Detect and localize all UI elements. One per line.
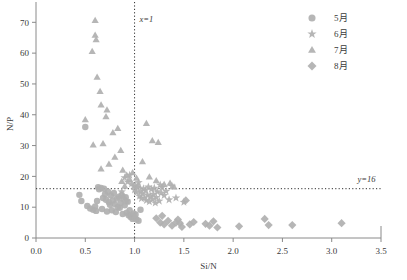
data-point-diamond bbox=[235, 222, 243, 230]
x-tick-label: 3.0 bbox=[326, 246, 338, 256]
data-point-triangle bbox=[105, 160, 112, 166]
legend-label: 6月 bbox=[334, 29, 348, 39]
x-tick-label: 0.0 bbox=[30, 246, 42, 256]
x-tick-label: 2.0 bbox=[228, 246, 240, 256]
data-point-triangle bbox=[139, 158, 146, 164]
reference-line-annotation: x=1 bbox=[139, 14, 154, 24]
legend-marker-circle bbox=[308, 14, 315, 21]
data-point-diamond bbox=[261, 215, 269, 223]
y-tick-label: 40 bbox=[20, 110, 30, 120]
data-point-triangle bbox=[155, 139, 162, 145]
data-point-triangle bbox=[82, 116, 89, 122]
legend-label: 7月 bbox=[334, 45, 348, 55]
y-tick-label: 60 bbox=[20, 48, 30, 58]
legend-item-star[interactable]: 6月 bbox=[307, 29, 347, 39]
x-tick-label: 1.5 bbox=[178, 246, 190, 256]
x-axis-title: Si/N bbox=[200, 261, 217, 271]
data-point-circle bbox=[137, 206, 143, 212]
axis-labels-layer: 0102030405060700.00.51.01.52.02.53.03.5S… bbox=[5, 14, 387, 271]
data-point-circle bbox=[76, 192, 82, 198]
data-point-triangle bbox=[143, 120, 150, 126]
data-point-star bbox=[165, 195, 173, 203]
data-point-triangle bbox=[96, 88, 103, 94]
data-point-triangle bbox=[166, 180, 173, 186]
data-point-triangle bbox=[149, 137, 156, 143]
data-point-triangle bbox=[92, 17, 99, 23]
data-point-triangle bbox=[114, 125, 121, 131]
y-tick-label: 70 bbox=[20, 18, 30, 28]
data-point-triangle bbox=[103, 106, 110, 112]
data-point-triangle bbox=[97, 165, 104, 171]
y-tick-label: 50 bbox=[20, 79, 30, 89]
data-point-triangle bbox=[146, 173, 153, 179]
data-point-circle bbox=[78, 198, 84, 204]
legend-item-circle[interactable]: 5月 bbox=[308, 13, 347, 23]
data-point-triangle bbox=[89, 48, 96, 54]
legend-marker-triangle bbox=[308, 46, 316, 53]
data-point-triangle bbox=[133, 175, 140, 181]
data-point-triangle bbox=[117, 147, 124, 153]
legend-label: 8月 bbox=[334, 61, 348, 71]
data-point-diamond bbox=[265, 221, 273, 229]
data-point-diamond bbox=[288, 221, 296, 229]
data-point-circle bbox=[93, 208, 99, 214]
x-tick-label: 1.0 bbox=[129, 246, 141, 256]
data-point-triangle bbox=[99, 140, 106, 146]
data-point-circle bbox=[82, 124, 88, 130]
data-point-triangle bbox=[92, 32, 99, 38]
legend-marker-star bbox=[307, 29, 316, 38]
series-triangle bbox=[82, 17, 178, 190]
data-point-diamond bbox=[213, 223, 221, 231]
legend-item-diamond[interactable]: 8月 bbox=[308, 61, 348, 71]
y-tick-label: 10 bbox=[20, 202, 30, 212]
reference-lines-layer bbox=[36, 2, 381, 238]
data-point-triangle bbox=[119, 167, 126, 173]
data-point-circle bbox=[94, 198, 100, 204]
y-tick-label: 0 bbox=[25, 233, 30, 243]
legend-label: 5月 bbox=[334, 13, 348, 23]
reference-line-annotation: y=16 bbox=[356, 174, 376, 184]
chart-legend: 5月6月7月8月 bbox=[307, 13, 347, 71]
scatter-chart-figure: 0102030405060700.00.51.01.52.02.53.03.5S… bbox=[0, 0, 407, 280]
y-axis-title: N/P bbox=[5, 117, 15, 131]
x-tick-label: 3.5 bbox=[375, 246, 387, 256]
data-point-star bbox=[172, 193, 180, 201]
data-point-triangle bbox=[97, 101, 104, 107]
legend-item-triangle[interactable]: 7月 bbox=[308, 45, 347, 55]
data-point-triangle bbox=[153, 177, 160, 183]
x-tick-label: 2.5 bbox=[277, 246, 289, 256]
data-point-circle bbox=[135, 218, 141, 224]
data-point-triangle bbox=[111, 154, 118, 160]
data-points-layer bbox=[76, 17, 346, 232]
data-point-triangle bbox=[102, 113, 109, 119]
y-tick-label: 20 bbox=[20, 172, 30, 182]
data-point-triangle bbox=[90, 141, 97, 147]
data-point-circle bbox=[101, 185, 107, 191]
data-point-diamond bbox=[337, 219, 345, 227]
y-tick-label: 30 bbox=[20, 141, 30, 151]
data-point-triangle bbox=[94, 74, 101, 80]
plot-canvas: 0102030405060700.00.51.01.52.02.53.03.5S… bbox=[0, 0, 407, 280]
legend-marker-diamond bbox=[308, 62, 317, 71]
x-tick-label: 0.5 bbox=[80, 246, 92, 256]
